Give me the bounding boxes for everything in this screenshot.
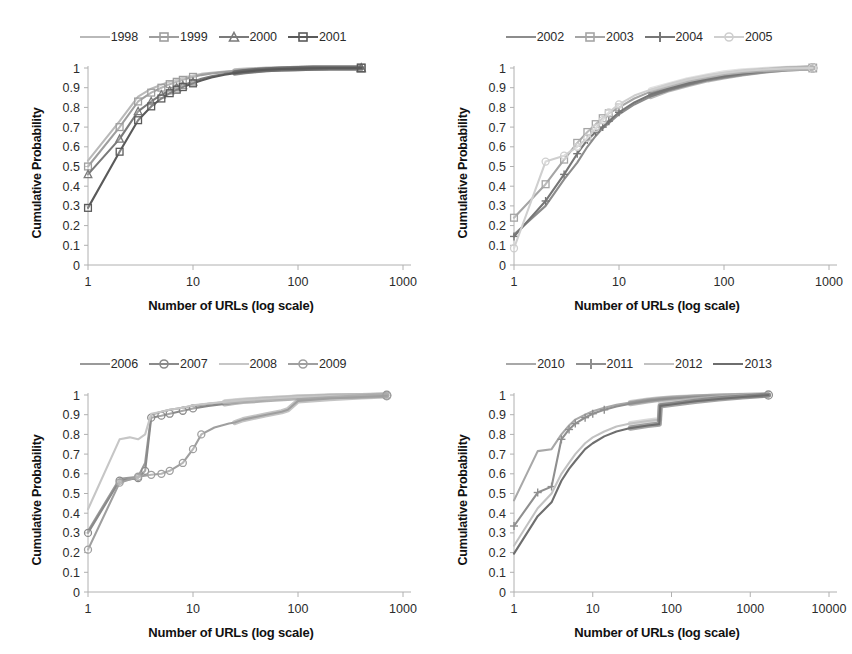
series-2011 <box>510 391 772 530</box>
y-tick-label: 0.5 <box>63 160 80 174</box>
y-tick-label: 0.1 <box>489 239 506 253</box>
y-tick-label: 0.9 <box>63 408 80 422</box>
y-tick-label: 0.7 <box>489 448 506 462</box>
chart-canvas: 10.90.80.70.60.50.40.30.20.101101001000 <box>426 50 852 327</box>
legend-label-2008: 2008 <box>250 358 277 371</box>
y-tick-label: 0.3 <box>489 199 506 213</box>
legend-item-2013[interactable]: 2013 <box>713 358 771 371</box>
legend-label-2011: 2011 <box>607 358 633 371</box>
legend-marker-2000 <box>219 31 249 43</box>
x-axis-title: Number of URLs (log scale) <box>56 625 406 645</box>
legend-label-2013: 2013 <box>744 358 771 371</box>
y-tick-label: 0.9 <box>489 408 506 422</box>
y-tick-label: 0.8 <box>63 101 80 115</box>
y-tick-label: 0.9 <box>489 81 506 95</box>
y-tick-label: 1 <box>499 389 506 403</box>
legend-item-2003[interactable]: 2003 <box>575 31 633 44</box>
chart-panel-top-right: 2002200320042005Cumulative Probability10… <box>426 0 852 327</box>
plot-area: Cumulative Probability10.90.80.70.60.50.… <box>426 377 852 654</box>
y-tick-label: 1 <box>73 62 80 76</box>
legend-marker-2011 <box>576 358 606 370</box>
y-tick-label: 0.6 <box>489 140 506 154</box>
y-tick-label: 0.2 <box>63 546 80 560</box>
legend-item-2012[interactable]: 2012 <box>644 358 702 371</box>
legend-item-2009[interactable]: 2009 <box>288 358 346 371</box>
legend-marker-2007 <box>149 358 179 370</box>
legend-label-2003: 2003 <box>606 31 633 44</box>
y-tick-label: 0.3 <box>489 526 506 540</box>
x-axis-ticks: 1101001000 <box>511 265 843 289</box>
y-tick-label: 0.9 <box>63 81 80 95</box>
legend-item-1999[interactable]: 1999 <box>149 31 207 44</box>
chart-legend: 2002200320042005 <box>426 26 852 48</box>
series-2007 <box>85 391 391 536</box>
legend-item-2011[interactable]: 2011 <box>576 358 633 371</box>
y-axis-ticks: 10.90.80.70.60.50.40.30.20.10 <box>63 389 88 600</box>
legend-label-2002: 2002 <box>537 31 564 44</box>
chart-canvas: 10.90.80.70.60.50.40.30.20.1011010010001… <box>426 377 852 654</box>
legend-item-2004[interactable]: 2004 <box>645 31 703 44</box>
y-tick-label: 0.4 <box>489 507 506 521</box>
legend-item-2002[interactable]: 2002 <box>506 31 564 44</box>
x-tick-label: 100 <box>288 275 309 289</box>
legend-label-2009: 2009 <box>319 358 346 371</box>
y-tick-label: 0.6 <box>63 467 80 481</box>
legend-marker-2005 <box>714 31 744 43</box>
x-tick-label: 1 <box>85 275 92 289</box>
y-tick-label: 0 <box>499 586 506 600</box>
y-tick-label: 0.8 <box>489 101 506 115</box>
series-2008 <box>88 395 387 509</box>
x-tick-label: 1000 <box>815 275 843 289</box>
legend-item-2005[interactable]: 2005 <box>714 31 772 44</box>
y-tick-label: 0.5 <box>489 160 506 174</box>
x-axis-ticks: 110100100010000 <box>511 592 847 616</box>
x-tick-label: 10 <box>612 275 626 289</box>
legend-marker-2009 <box>288 358 318 370</box>
plot-area: Cumulative Probability10.90.80.70.60.50.… <box>0 50 426 327</box>
legend-item-2001[interactable]: 2001 <box>288 31 346 44</box>
series-2013 <box>514 395 768 554</box>
legend-item-2008[interactable]: 2008 <box>219 358 277 371</box>
chart-canvas: 10.90.80.70.60.50.40.30.20.101101001000 <box>0 50 426 327</box>
figure-cdf-url-counts: 1998199920002001Cumulative Probability10… <box>0 0 852 654</box>
legend-marker-2013 <box>713 358 743 370</box>
x-tick-label: 10 <box>186 275 200 289</box>
legend-marker-2008 <box>219 358 249 370</box>
legend-item-2010[interactable]: 2010 <box>506 358 564 371</box>
series-2006 <box>88 395 387 531</box>
legend-label-2010: 2010 <box>537 358 564 371</box>
legend-item-2000[interactable]: 2000 <box>219 31 277 44</box>
legend-marker-2001 <box>288 31 318 43</box>
legend-marker-2004 <box>645 31 675 43</box>
y-axis-ticks: 10.90.80.70.60.50.40.30.20.10 <box>489 389 514 600</box>
axis-lines <box>514 393 837 592</box>
legend-marker-2006 <box>80 358 110 370</box>
y-tick-label: 0 <box>499 259 506 273</box>
x-tick-label: 10 <box>586 602 600 616</box>
y-tick-label: 0.6 <box>63 140 80 154</box>
y-tick-label: 0.4 <box>63 180 80 194</box>
x-tick-label: 100 <box>288 602 309 616</box>
legend-item-2007[interactable]: 2007 <box>149 358 207 371</box>
legend-label-2012: 2012 <box>675 358 702 371</box>
y-tick-label: 0.3 <box>63 199 80 213</box>
y-tick-label: 0.3 <box>63 526 80 540</box>
y-tick-label: 0.5 <box>489 487 506 501</box>
chart-legend: 2010201120122013 <box>426 353 852 375</box>
legend-marker-2002 <box>506 31 536 43</box>
plot-area: Cumulative Probability10.90.80.70.60.50.… <box>426 50 852 327</box>
x-axis-title: Number of URLs (log scale) <box>482 298 832 318</box>
chart-canvas: 10.90.80.70.60.50.40.30.20.101101001000 <box>0 377 426 654</box>
legend-marker-2012 <box>644 358 674 370</box>
x-tick-label: 1 <box>511 275 518 289</box>
legend-label-2005: 2005 <box>745 31 772 44</box>
legend-item-2006[interactable]: 2006 <box>80 358 138 371</box>
legend-label-2001: 2001 <box>319 31 346 44</box>
y-tick-label: 0.1 <box>63 566 80 580</box>
legend-label-1998: 1998 <box>111 31 138 44</box>
axis-lines <box>88 393 411 592</box>
plot-area: Cumulative Probability10.90.80.70.60.50.… <box>0 377 426 654</box>
legend-label-2004: 2004 <box>676 31 703 44</box>
legend-item-1998[interactable]: 1998 <box>80 31 138 44</box>
legend-label-2006: 2006 <box>111 358 138 371</box>
